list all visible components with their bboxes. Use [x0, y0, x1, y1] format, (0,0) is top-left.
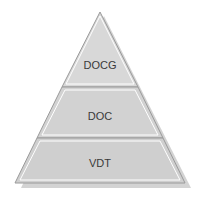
tier-label-doc: DOC	[60, 110, 140, 122]
tier-label-vdt: VDT	[60, 157, 140, 169]
tier-label-docg: DOCG	[60, 59, 140, 71]
pyramid-diagram	[0, 0, 204, 205]
tier-docg-shape	[62, 12, 138, 87]
